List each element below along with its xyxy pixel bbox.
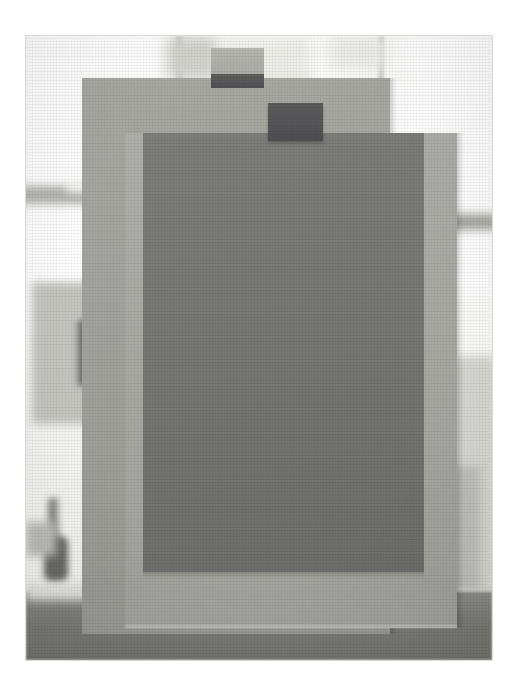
tape-top-left-upper [211,48,264,74]
paper-sheet-middle-shadow [457,133,464,628]
screenshot-canvas: Stacked grey paper sheets taped in front… [0,0,520,696]
paper-sheet-middle-bottom-lip [125,625,457,628]
photograph [26,36,492,660]
haze-top-right [326,36,386,72]
paper-sheet-front-shadow [143,572,424,578]
tape-top-left-lower [211,74,264,88]
image-title: Stacked grey paper sheets taped in front… [0,21,1,22]
tape-top-left [211,48,264,88]
tool-shadow [26,522,56,556]
paper-sheet-front [143,133,424,572]
tape-top-right [268,103,323,141]
